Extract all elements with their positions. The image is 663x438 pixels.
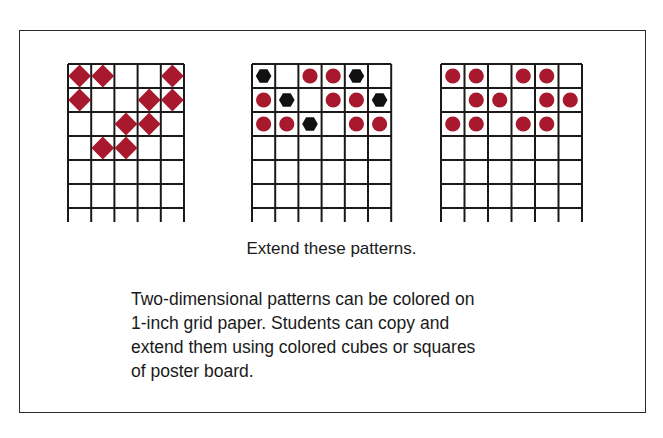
red-circle-icon (539, 92, 554, 107)
red-circle-icon (256, 92, 271, 107)
red-diamond-icon (138, 89, 161, 112)
red-diamond-icon (115, 113, 138, 136)
red-circle-icon (539, 116, 554, 131)
description-line: of poster board. (131, 359, 571, 383)
grid-circle-hexagon-pattern (252, 64, 393, 224)
red-diamond-icon (161, 65, 184, 88)
red-circle-icon (445, 68, 460, 83)
caption: Extend these patterns. (0, 238, 663, 260)
red-circle-icon (372, 116, 387, 131)
description-line: Two-dimensional patterns can be colored … (131, 287, 571, 311)
red-circle-icon (539, 68, 554, 83)
red-circle-icon (349, 116, 364, 131)
grid-diamond-pattern (68, 64, 186, 224)
red-circle-icon (445, 116, 460, 131)
red-circle-icon (326, 92, 341, 107)
red-diamond-icon (68, 89, 91, 112)
red-circle-icon (516, 116, 531, 131)
grid-circle-pattern (441, 64, 584, 224)
black-hexagon-icon (279, 93, 295, 107)
red-circle-icon (279, 116, 294, 131)
red-circle-icon (492, 92, 507, 107)
red-diamond-icon (161, 89, 184, 112)
red-circle-icon (302, 68, 317, 83)
black-hexagon-icon (372, 93, 388, 107)
red-circle-icon (326, 68, 341, 83)
red-circle-icon (349, 92, 364, 107)
red-diamond-icon (138, 113, 161, 136)
red-circle-icon (516, 68, 531, 83)
description: Two-dimensional patterns can be colored … (131, 287, 571, 383)
red-diamond-icon (91, 65, 114, 88)
red-diamond-icon (115, 137, 138, 160)
description-line: extend them using colored cubes or squar… (131, 335, 571, 359)
description-line: 1-inch grid paper. Students can copy and (131, 311, 571, 335)
black-hexagon-icon (256, 69, 272, 83)
black-hexagon-icon (302, 117, 318, 131)
black-hexagon-icon (349, 69, 365, 83)
red-circle-icon (469, 116, 484, 131)
red-diamond-icon (68, 65, 91, 88)
red-circle-icon (256, 116, 271, 131)
red-circle-icon (469, 92, 484, 107)
red-circle-icon (563, 92, 578, 107)
red-circle-icon (469, 68, 484, 83)
red-diamond-icon (91, 137, 114, 160)
